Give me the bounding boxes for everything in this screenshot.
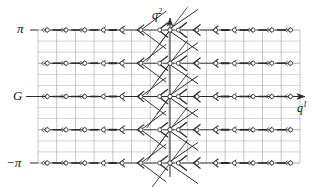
ytick-label-pi: π [17, 22, 24, 35]
axis-label-q1: q1 [297, 101, 307, 114]
lattice-vector-field-figure [0, 0, 318, 187]
axis-label-q1-superscript: 1 [303, 100, 307, 109]
axis-label-q2-superscript: 2 [158, 7, 162, 16]
ytick-label-G: G [13, 89, 22, 102]
axis-label-q2: q2 [152, 8, 162, 21]
ytick-label-minus-pi: −π [6, 156, 21, 169]
